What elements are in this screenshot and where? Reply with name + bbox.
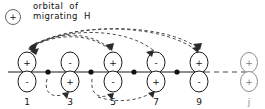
orbital-sign-upper: + bbox=[109, 58, 117, 68]
migration-arcs-above bbox=[28, 29, 202, 55]
orbital-sign-lower: + bbox=[152, 77, 160, 87]
migrating-h-orbital-sign: + bbox=[9, 12, 17, 22]
orbital-sign-upper: + bbox=[23, 58, 31, 68]
orbital-sign-lower: - bbox=[25, 77, 28, 87]
arc-3-to-7-lower bbox=[98, 92, 153, 101]
position-label: 9 bbox=[196, 97, 202, 107]
chain-node-dot bbox=[88, 69, 93, 74]
orbital-position-1: + - 1 bbox=[18, 52, 36, 107]
arc-5-to-1-upper bbox=[28, 37, 110, 50]
orbital-position-5: + - 5 bbox=[104, 52, 122, 107]
chain-node-dot bbox=[174, 69, 179, 74]
position-label: 7 bbox=[153, 97, 159, 107]
position-label: 3 bbox=[67, 97, 73, 107]
position-label: 1 bbox=[24, 97, 30, 107]
orbital-sign-upper: + bbox=[195, 58, 203, 68]
orbital-sign-lower: - bbox=[111, 77, 114, 87]
chain-node-dot bbox=[131, 69, 136, 74]
orbital-position-7: - + 7 bbox=[147, 52, 165, 107]
orbital-sign-upper: - bbox=[68, 58, 71, 68]
orbital-migration-diagram: orbital of migrating H + + - 1 - bbox=[0, 0, 265, 109]
orbital-sign-lower: + bbox=[66, 77, 74, 87]
orbital-sign-lower: - bbox=[197, 77, 200, 87]
position-label: j bbox=[247, 97, 251, 107]
migrating-hydrogen-orbital: + bbox=[6, 10, 21, 25]
orbital-position-3: - + 3 bbox=[61, 52, 79, 107]
orbital-sign-upper: - bbox=[154, 58, 157, 68]
chain-node-dot bbox=[45, 69, 50, 74]
arc-7-to-1-upper bbox=[29, 32, 153, 50]
orbital-position-9: + - 9 bbox=[190, 52, 208, 107]
orbital-position-j: + + j bbox=[241, 53, 258, 108]
orbital-sign-lower: + bbox=[245, 77, 253, 87]
orbital-sign-upper: + bbox=[245, 58, 253, 68]
